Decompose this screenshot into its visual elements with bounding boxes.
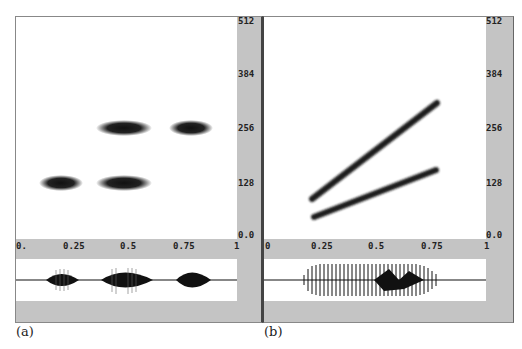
- x-tick: 0.75: [173, 241, 195, 251]
- y-tick: 384: [238, 69, 254, 79]
- y-tick: 256: [486, 123, 502, 133]
- x-tick: 0.5: [120, 241, 136, 251]
- y-tick: 512: [486, 16, 502, 26]
- x-tick: 0.: [16, 241, 27, 251]
- x-tick: 0.25: [311, 241, 333, 251]
- x-tick: 0.75: [421, 241, 443, 251]
- y-tick: 128: [238, 178, 254, 188]
- y-tick: 0.0: [238, 230, 254, 240]
- caption-a: (a): [16, 324, 34, 339]
- waveform-b: [264, 259, 486, 301]
- y-tick: 384: [486, 69, 502, 79]
- y-tick: 128: [486, 178, 502, 188]
- y-tick: 256: [238, 123, 254, 133]
- waveform-a: [16, 259, 237, 301]
- x-tick: 1: [484, 241, 489, 251]
- spectrogram-a: [16, 17, 237, 239]
- x-tick: 1: [234, 241, 239, 251]
- y-tick: 512: [238, 16, 254, 26]
- spectrogram-b: [264, 17, 486, 239]
- y-tick: 0.0: [486, 230, 502, 240]
- x-tick: 0.25: [63, 241, 85, 251]
- panel-a: 512 384 256 128 0.0 0. 0.25 0.5 0.75 1: [15, 16, 263, 323]
- x-tick: 0: [265, 241, 270, 251]
- panel-b: 512 384 256 128 0.0 0 0.25 0.5 0.75 1: [263, 16, 514, 323]
- caption-b: (b): [264, 324, 282, 339]
- x-tick: 0.5: [368, 241, 384, 251]
